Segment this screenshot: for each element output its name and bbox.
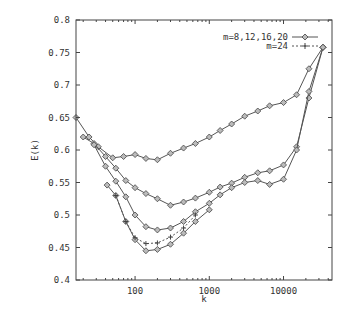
diamond-marker-icon (206, 134, 212, 140)
diamond-marker-icon (167, 202, 173, 208)
diamond-marker-icon (281, 100, 287, 106)
plus-marker-icon (143, 241, 148, 246)
diamond-marker-icon (143, 155, 149, 161)
diamond-marker-icon (281, 176, 287, 182)
diamond-marker-icon (121, 154, 127, 160)
legend-diamond-marker-icon (302, 34, 308, 40)
diamond-marker-icon (255, 170, 261, 176)
diamond-marker-icon (103, 163, 109, 169)
y-tick-label: 0.75 (48, 48, 70, 58)
y-tick-label: 0.55 (48, 178, 70, 188)
diamond-marker-icon (132, 152, 138, 158)
diamond-marker-icon (255, 178, 261, 184)
diamond-marker-icon (143, 191, 149, 197)
axes: 0.40.450.50.550.60.650.70.750.8100100010… (48, 15, 332, 296)
diamond-marker-icon (255, 108, 261, 114)
diamond-marker-icon (80, 134, 86, 140)
diamond-marker-icon (181, 199, 187, 205)
y-tick-label: 0.6 (54, 145, 70, 155)
diamond-marker-icon (294, 92, 300, 98)
y-tick-label: 0.45 (48, 243, 70, 253)
diamond-marker-icon (192, 195, 198, 201)
legend: m=8,12,16,20 m=24 (223, 32, 318, 51)
plot-area (73, 44, 326, 253)
diamond-marker-icon (242, 180, 248, 186)
diamond-marker-icon (154, 196, 160, 202)
y-tick-label: 0.8 (54, 15, 70, 25)
diamond-marker-icon (229, 185, 235, 191)
legend-label-2: m=24 (266, 41, 288, 51)
diamond-marker-icon (267, 103, 273, 109)
diamond-marker-icon (217, 184, 223, 190)
diamond-marker-icon (306, 66, 312, 72)
legend-plus-marker-icon (302, 43, 308, 49)
y-tick-label: 0.7 (54, 80, 70, 90)
plus-marker-icon (181, 226, 186, 231)
series-line-m=12 (83, 47, 323, 205)
diamond-marker-icon (206, 189, 212, 195)
diamond-marker-icon (167, 150, 173, 156)
diamond-marker-icon (267, 181, 273, 187)
series-line-m=20 (107, 185, 209, 251)
diamond-marker-icon (154, 227, 160, 233)
x-tick-label: 10000 (270, 286, 297, 296)
y-tick-label: 0.5 (54, 210, 70, 220)
diamond-marker-icon (229, 121, 235, 127)
diamond-marker-icon (123, 194, 129, 200)
diamond-marker-icon (217, 128, 223, 134)
y-tick-label: 0.4 (54, 275, 70, 285)
diamond-marker-icon (320, 44, 326, 50)
diamond-marker-icon (167, 225, 173, 231)
diamond-marker-icon (154, 157, 160, 163)
diamond-marker-icon (267, 168, 273, 174)
diamond-marker-icon (242, 113, 248, 119)
chart: 0.40.450.50.550.60.650.70.750.8100100010… (0, 0, 351, 315)
diamond-marker-icon (192, 141, 198, 147)
diamond-marker-icon (113, 178, 119, 184)
plus-marker-icon (155, 240, 160, 245)
plus-marker-icon (168, 235, 173, 240)
diamond-marker-icon (154, 246, 160, 252)
diamond-marker-icon (181, 145, 187, 151)
x-tick-label: 100 (127, 286, 143, 296)
y-axis-label: E(k) (30, 139, 40, 161)
y-tick-label: 0.65 (48, 113, 70, 123)
x-axis-label: k (201, 294, 207, 304)
